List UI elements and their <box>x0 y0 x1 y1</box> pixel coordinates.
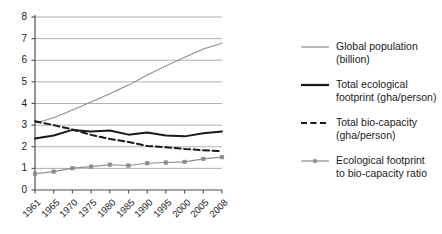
legend-label-line2: to bio-capacity ratio <box>336 167 427 180</box>
series-marker-3 <box>127 164 131 168</box>
y-axis-tick-label: 7 <box>13 34 27 44</box>
y-axis-tick-label: 2 <box>13 142 27 152</box>
series-marker-3 <box>52 170 56 174</box>
y-axis-tick-label: 3 <box>13 120 27 130</box>
legend-swatch-icon <box>300 36 330 58</box>
legend-label-line2: footprint (gha/person) <box>336 91 436 104</box>
y-axis-tick-label: 6 <box>13 55 27 65</box>
legend-label: Total bio-capacity(gha/person) <box>336 112 417 141</box>
y-axis-tick-label: 1 <box>13 163 27 173</box>
series-marker-3 <box>145 161 149 165</box>
legend-label-line1: Total ecological <box>336 78 436 91</box>
legend-swatch-icon <box>300 150 330 172</box>
y-axis-tick-label: 4 <box>13 99 27 109</box>
series-marker-3 <box>202 157 206 161</box>
series-marker-3 <box>71 166 75 170</box>
legend-label: Ecological footprintto bio-capacity rati… <box>336 150 427 179</box>
y-axis-tick-label: 5 <box>13 77 27 87</box>
series-marker-3 <box>89 165 93 169</box>
legend-label-line2: (gha/person) <box>336 129 417 142</box>
legend-entry: Total bio-capacity(gha/person) <box>300 112 442 141</box>
y-axis-tick-label: 0 <box>13 185 27 195</box>
gridlines <box>35 17 222 168</box>
series-marker-3 <box>108 163 112 167</box>
series-marker-3 <box>183 160 187 164</box>
legend-label-line1: Ecological footprint <box>336 154 427 167</box>
legend-swatch-icon <box>300 74 330 96</box>
ecological-footprint-line-chart: 012345678 196119651970197519801985199019… <box>0 0 442 234</box>
series-line-0 <box>35 43 222 123</box>
legend-entry: Ecological footprintto bio-capacity rati… <box>300 150 442 179</box>
chart-legend: Global population(billion)Total ecologic… <box>300 36 442 188</box>
data-series-group <box>33 43 224 175</box>
y-axis-tick-label: 8 <box>13 12 27 22</box>
legend-label-line1: Total bio-capacity <box>336 116 417 129</box>
series-line-1 <box>35 130 222 139</box>
legend-entry: Total ecologicalfootprint (gha/person) <box>300 74 442 103</box>
series-marker-3 <box>164 161 168 165</box>
legend-swatch-icon <box>300 112 330 134</box>
legend-entry: Global population(billion) <box>300 36 442 65</box>
legend-label-line2: (billion) <box>336 53 418 66</box>
series-marker-3 <box>33 172 37 176</box>
legend-label-line1: Global population <box>336 40 418 53</box>
series-marker-3 <box>220 155 224 159</box>
legend-label: Global population(billion) <box>336 36 418 65</box>
legend-label: Total ecologicalfootprint (gha/person) <box>336 74 436 103</box>
